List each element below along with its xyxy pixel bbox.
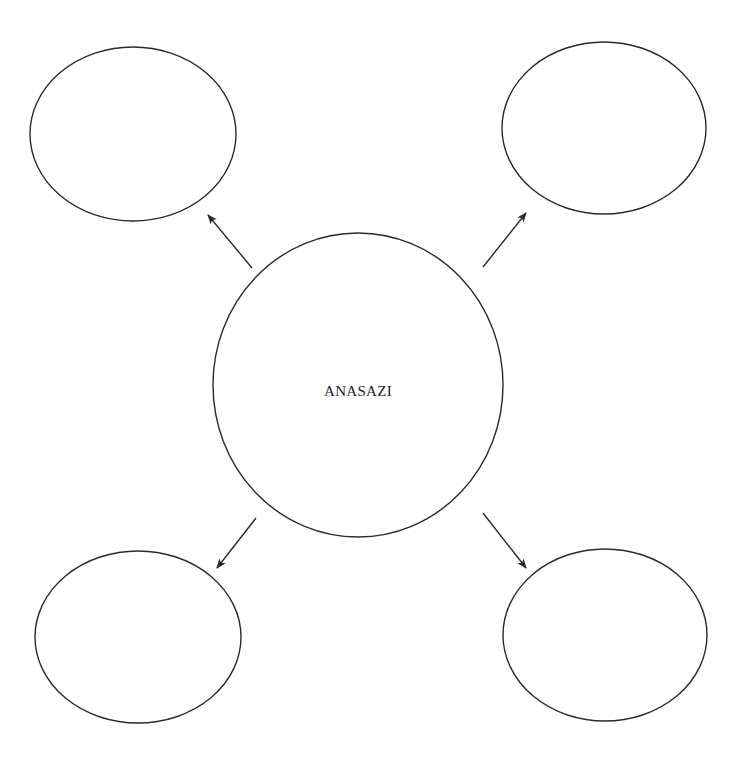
satellite-ellipse-bottom-right [503, 549, 707, 721]
arrow-to-top-left [208, 215, 252, 268]
concept-web-diagram [0, 0, 739, 762]
arrow-to-bottom-right [483, 513, 526, 568]
arrow-to-bottom-left [217, 518, 256, 568]
satellite-ellipse-top-right [502, 42, 706, 214]
center-label: ANASAZI [324, 383, 392, 400]
satellite-ellipse-bottom-left [35, 551, 241, 723]
satellite-ellipse-top-left [30, 47, 236, 221]
arrow-to-top-right [483, 213, 526, 267]
